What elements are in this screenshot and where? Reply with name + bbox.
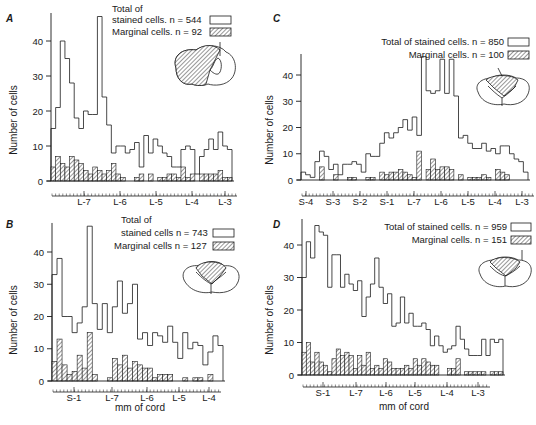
marginal-bar [430, 365, 434, 375]
marginal-bar [111, 164, 116, 182]
legend-total-line2: stained cells n = 743 [121, 227, 208, 238]
marginal-bar [409, 369, 413, 376]
x-tick-label: S-3 [326, 196, 341, 207]
y-tick-label: 30 [32, 71, 43, 82]
y-axis-label: Number of cells [264, 95, 275, 164]
x-axis: S-1L-7L-6L-5L-4L-3 [303, 382, 490, 398]
marginal-bar [496, 170, 501, 181]
marginal-bar [135, 178, 140, 182]
marginal-bar [413, 359, 417, 375]
marginal-bar [67, 375, 72, 381]
marginal-bar [445, 167, 450, 180]
x-tick-label: L-5 [149, 196, 163, 207]
marginal-bar [74, 160, 79, 181]
marginal-bar [70, 157, 75, 182]
marginal-bar [494, 372, 498, 375]
marginal-bar [358, 356, 362, 376]
marginal-bar [431, 159, 436, 180]
marginal-bar [93, 167, 98, 181]
marginal-bar [213, 174, 218, 181]
marginal-bar [389, 172, 394, 180]
y-tick-label: 40 [32, 36, 43, 47]
x-tick-label: L-6 [113, 196, 127, 207]
y-axis-label: Number of cells [264, 285, 275, 354]
marginal-bar [138, 365, 143, 381]
x-tick-label: S-1 [380, 196, 395, 207]
marginal-bar [435, 170, 440, 181]
marginal-bar [380, 172, 385, 180]
marginal-bar [375, 365, 379, 375]
y-tick-label: 20 [283, 305, 294, 316]
marginal-bar [62, 365, 67, 381]
legend-total-line1: Total of [112, 3, 143, 14]
y-tick-label: 30 [283, 272, 294, 283]
marginal-bar [158, 375, 163, 381]
x-axis-label: mm of cord [115, 402, 165, 413]
legend-swatch-hatched [213, 242, 234, 250]
marginal-bar [148, 368, 153, 381]
panel-letter-d: D [273, 219, 280, 230]
x-axis-label: mm of cord [379, 401, 429, 412]
x-tick-label: L-6 [434, 196, 448, 207]
x-tick-label: L-4 [488, 196, 502, 207]
x-tick-label: S-1 [316, 387, 331, 398]
legend-marginal: Marginal cells n = 127 [114, 240, 207, 251]
marginal-bar [56, 157, 61, 182]
marginal-bar [153, 378, 158, 381]
marginal-bar [208, 375, 213, 381]
histogram [298, 226, 505, 376]
total-step-line [301, 57, 528, 180]
marginal-bar [77, 355, 82, 381]
y-tick-label: 40 [283, 240, 294, 251]
y-tick-label: 30 [33, 279, 44, 290]
marginal-bar [482, 175, 487, 180]
x-tick-label: S-4 [299, 196, 314, 207]
marginal-bar [200, 174, 205, 181]
marginal-bar [422, 359, 426, 375]
marginal-bar [204, 174, 209, 181]
panel-letter-b: B [6, 219, 13, 230]
y-tick-label: 20 [32, 106, 43, 117]
marginal-bar [328, 372, 332, 375]
legend-total-line1: Total of [121, 214, 152, 225]
marginal-bar [168, 375, 173, 381]
legend-swatch-hatched [511, 236, 531, 244]
total-step-line [51, 17, 232, 182]
marginal-bar [388, 362, 392, 375]
figure-canvas: A Number of cells 010203040 L-7L-6L-5L-4… [0, 0, 536, 425]
y-axis: 010203040 [283, 219, 302, 381]
panel-letter-c: C [273, 13, 281, 24]
marginal-bar [459, 175, 464, 180]
marginal-bar [473, 372, 477, 375]
legend-marginal: Marginal cells. n = 100 [409, 49, 504, 60]
marginal-bar [383, 359, 387, 375]
panel-b-chart: B Number of cells 010203040 S-1L-7L-6L-5… [6, 214, 239, 413]
legend: Total of stained cells. n = 959 Marginal… [384, 221, 531, 245]
marginal-bar [396, 369, 400, 376]
marginal-bar [302, 352, 306, 375]
marginal-bar [403, 172, 408, 180]
legend-swatch-hatched [508, 51, 529, 59]
marginal-bar [79, 164, 84, 182]
marginal-bar [223, 178, 228, 182]
marginal-bar [83, 171, 88, 182]
legend-swatch-open [213, 229, 234, 237]
x-axis: S-1L-7L-6L-5L-4 [53, 387, 221, 403]
marginal-bar [447, 369, 451, 376]
x-tick-label: L-7 [77, 196, 91, 207]
y-tick-label: 0 [288, 175, 293, 186]
marginal-bar [456, 359, 460, 375]
marginal-bar [176, 178, 181, 182]
marginal-bar [88, 174, 93, 181]
panel-a-chart: A Number of cells 010203040 L-7L-6L-5L-4… [5, 3, 237, 207]
marginal-bar [107, 378, 112, 381]
marginal-bar [60, 164, 65, 182]
marginal-bar [122, 355, 127, 381]
marginal-bar [370, 369, 374, 376]
marginal-bar [97, 171, 102, 182]
y-tick-label: 10 [282, 148, 293, 159]
x-tick-label: L-4 [440, 387, 454, 398]
marginal-bar [163, 375, 168, 381]
x-tick-label: L-7 [407, 196, 421, 207]
marginal-bar [500, 172, 505, 180]
